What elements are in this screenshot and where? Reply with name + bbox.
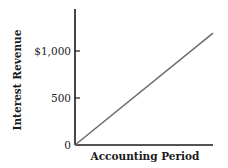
y-ticks: 0500$1,000 — [34, 45, 80, 151]
series — [75, 33, 213, 145]
series-line-interest-revenue — [75, 33, 213, 145]
chart: 0500$1,000 Accounting Period Interest Re… — [0, 0, 228, 168]
y-axis-title: Interest Revenue — [11, 29, 23, 130]
y-tick-label: 500 — [51, 92, 71, 104]
axes — [75, 9, 213, 145]
y-tick-label: $1,000 — [34, 45, 71, 57]
y-tick-label: 0 — [64, 139, 71, 151]
x-axis-title: Accounting Period — [90, 150, 200, 162]
